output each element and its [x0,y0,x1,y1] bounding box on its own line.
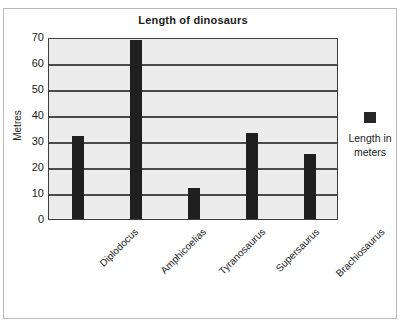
legend-label-line-2: meters [344,145,396,159]
x-axis-tick-labels: DiplodocusAmphicoeliasTyranosaurusSupers… [48,220,338,305]
bar-supersaurus [246,133,258,219]
figure-canvas: Length of dinosaurs Metres 7060504030201… [0,0,402,329]
y-axis-tick-label: 30 [4,136,44,147]
bar-amphicoelias [130,40,142,219]
y-axis-tick-label: 60 [4,58,44,69]
legend-label-length-in-meters: Length in meters [344,131,396,159]
plot-area [48,38,338,220]
bar-diplodocus [72,136,84,219]
y-axis-tick-label: 70 [4,32,44,43]
bar-tyranosaurus [188,188,200,219]
x-axis-tick-label: Amphicoelias [158,226,208,276]
x-axis-tick-label: Diplodocus [97,226,140,269]
x-axis-tick-label: Supersaurus [274,226,322,274]
x-axis-tick-label: Tyranosaurus [217,226,268,277]
chart-title: Length of dinosaurs [48,14,338,26]
legend-label-line-1: Length in [344,131,396,145]
bar-brachiosaurus [304,154,316,219]
legend: Length in meters [344,108,396,159]
legend-swatch-length-in-meters [364,112,376,123]
y-axis-tick-label: 40 [4,110,44,121]
bar-series [49,39,337,219]
y-axis-tick-label: 0 [4,214,44,225]
y-axis-tick-label: 10 [4,188,44,199]
y-axis-tick-label: 20 [4,162,44,173]
y-axis-tick-labels: 706050403020100 [0,38,44,220]
y-axis-tick-label: 50 [4,84,44,95]
